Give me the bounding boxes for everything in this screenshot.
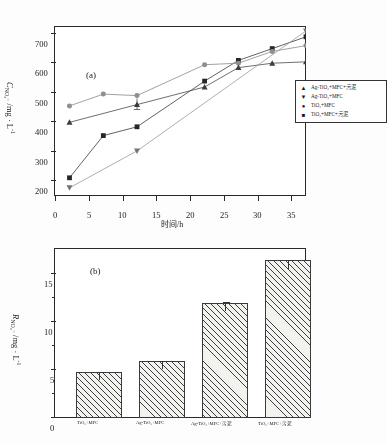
- b-tick-m2: [52, 345, 55, 346]
- a-xtick-15: [156, 196, 157, 201]
- a-ytick-400: [51, 121, 56, 122]
- b-ytick-label-5: 5: [50, 375, 54, 385]
- a-xtick-20: [190, 196, 191, 201]
- a-xtick-5: [89, 196, 90, 201]
- a-xtick-label-25: 25: [220, 210, 229, 220]
- legend-item-ag-tio2-mfc[interactable]: ▼ Ag-TiO₂+MFC: [299, 92, 383, 101]
- a-ytick-300: [51, 151, 56, 152]
- bar-tio2-mfc-sludge: [265, 260, 311, 418]
- a-xtick-label-35: 35: [287, 210, 296, 220]
- errorcap-1: [97, 373, 104, 374]
- b-ytick-label-10: 10: [44, 327, 53, 337]
- a-xtick-label-30: 30: [253, 210, 262, 220]
- bar-category-label-1: TiO₂+MFC: [77, 420, 98, 425]
- a-xtick-25: [224, 196, 225, 201]
- errorbar-3: [226, 303, 227, 311]
- a-ytick-500: [51, 92, 56, 93]
- circle-icon: ●: [299, 103, 308, 109]
- a-xtick-0: [55, 196, 56, 201]
- a-xtick-30: [258, 196, 259, 201]
- b-tick-m3: [52, 297, 55, 298]
- a-xtick-label-0: 0: [53, 210, 57, 220]
- a-xtick-label-15: 15: [152, 210, 161, 220]
- a-xtick-label-5: 5: [87, 210, 91, 220]
- panel-a-tag: (a): [86, 70, 96, 80]
- a-ytick-label-500: 500: [35, 98, 48, 108]
- errorcap-2: [160, 362, 167, 363]
- a-y-axis-unit: /mg · L: [5, 101, 15, 129]
- triangle-down-icon: ▼: [299, 94, 308, 100]
- b-tick-m1: [52, 393, 55, 394]
- series-line-ag-tio2-mfc-sludge: [70, 31, 307, 188]
- errorcap-3: [223, 303, 230, 304]
- bar-category-label-2: Ag-TiO₂+MFC: [136, 420, 164, 425]
- b-tick-5: [51, 369, 56, 370]
- a-ytick-200: [51, 180, 56, 181]
- errorbar-2: [163, 362, 164, 369]
- errorbar-1: [100, 373, 101, 380]
- b-tick-15: [51, 273, 56, 274]
- errorbar-4: [289, 261, 290, 269]
- line-series-svg: [56, 28, 306, 196]
- a-y-axis-subscript: NO₃⁻: [4, 88, 10, 102]
- bar-category-label-4: TiO₂+MFC+污泥: [258, 420, 292, 426]
- a-xtick-label-20: 20: [186, 210, 195, 220]
- legend-item-tio2-mfc-sludge[interactable]: ■ TiO₂+MFC+污泥: [299, 111, 383, 120]
- series-line-tio2-mfc-sludge: [70, 37, 307, 178]
- a-y-axis-exponent: -1: [10, 129, 16, 134]
- bar-ag-tio2-mfc: [139, 361, 185, 418]
- b-tick-0: [51, 417, 56, 418]
- markers-triangle-up: [67, 28, 307, 190]
- bar-ag-tio2-mfc-sludge: [202, 303, 248, 418]
- a-xtick-35: [292, 196, 293, 201]
- legend-label-ag-tio2-mfc: Ag-TiO₂+MFC: [311, 94, 343, 99]
- series-line-tio2-mfc: [70, 46, 307, 106]
- panel-b-bar-chart: TiO₂+MFC Ag-TiO₂+MFC Ag-TiO₂+MFC+污泥 TiO₂…: [0, 222, 336, 444]
- b-y-axis-subscript: NO₃⁻: [10, 319, 16, 333]
- legend-item-tio2-mfc[interactable]: ● TiO₂+MFC: [299, 101, 383, 110]
- a-ytick-label-200: 200: [35, 186, 48, 196]
- a-y-axis-title: CNO₃⁻ /mg · L-1: [4, 82, 16, 134]
- legend-label-ag-tio2-mfc-sludge: Ag-TiO₂+MFC+污泥: [311, 85, 356, 90]
- a-xtick-label-10: 10: [118, 210, 127, 220]
- legend-label-tio2-mfc: TiO₂+MFC: [311, 103, 335, 108]
- bar-category-label-3: Ag-TiO₂+MFC+污泥: [191, 420, 232, 426]
- panel-a-line-chart: 0 5 10 15 20 25 30 35 时间/h 200 300 400 5…: [0, 0, 336, 222]
- triangle-up-icon: ▲: [299, 85, 308, 91]
- legend-label-tio2-mfc-sludge: TiO₂+MFC+污泥: [311, 112, 348, 117]
- a-ytick-label-700: 700: [35, 39, 48, 49]
- a-x-axis-title: 时间/h: [161, 218, 183, 229]
- b-y-axis-unit: /mg · L: [11, 333, 21, 361]
- square-icon: ■: [299, 112, 308, 118]
- a-xtick-10: [123, 196, 124, 201]
- b-y-axis-title: RNO₃⁻ /mg · L-1: [10, 314, 22, 366]
- line-chart-legend: ▲ Ag-TiO₂+MFC+污泥 ▼ Ag-TiO₂+MFC ● TiO₂+MF…: [295, 80, 387, 123]
- b-y-axis-exponent: -1: [16, 361, 22, 366]
- markers-circle: [67, 43, 306, 108]
- a-ytick-label-300: 300: [35, 157, 48, 167]
- b-ytick-label-0: 0: [50, 423, 54, 433]
- b-ytick-label-15: 15: [44, 279, 53, 289]
- a-ytick-label-600: 600: [35, 68, 48, 78]
- panel-b-tag: (b): [90, 266, 101, 276]
- a-ytick-700: [51, 33, 56, 34]
- legend-item-ag-tio2-mfc-sludge[interactable]: ▲ Ag-TiO₂+MFC+污泥: [299, 83, 383, 92]
- a-ytick-label-400: 400: [35, 127, 48, 137]
- b-tick-10: [51, 321, 56, 322]
- errorcap-4: [286, 261, 293, 262]
- a-ytick-600: [51, 63, 56, 64]
